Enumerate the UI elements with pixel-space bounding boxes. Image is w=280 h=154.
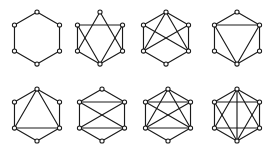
graph-node-2 (257, 126, 261, 130)
graph-node-3 (235, 139, 239, 143)
graph-node-0 (235, 10, 239, 14)
graph-node-5 (12, 100, 16, 104)
graph-node-4 (12, 49, 16, 53)
graph-node-4 (141, 49, 145, 53)
graph-node-5 (212, 23, 216, 27)
graph-node-3 (164, 62, 168, 66)
figure-background (0, 0, 280, 154)
graph-node-2 (257, 49, 261, 53)
graph-node-2 (188, 126, 192, 130)
graph-node-5 (212, 100, 216, 104)
graph-node-2 (57, 49, 61, 53)
graph-node-4 (143, 126, 147, 130)
graph-node-1 (57, 100, 61, 104)
graph-node-2 (122, 126, 126, 130)
graph-node-0 (100, 87, 104, 91)
graph-node-1 (186, 23, 190, 27)
graph-node-0 (98, 10, 102, 14)
graph-node-3 (98, 62, 102, 66)
graph-node-4 (212, 126, 216, 130)
graph-node-4 (212, 49, 216, 53)
graph-node-4 (12, 126, 16, 130)
graph-node-3 (235, 62, 239, 66)
graph-node-0 (35, 87, 39, 91)
graph-node-5 (75, 23, 79, 27)
graph-node-3 (100, 139, 104, 143)
graph-node-5 (77, 100, 81, 104)
graph-family-figure (0, 0, 280, 154)
graph-node-0 (164, 10, 168, 14)
graph-node-3 (35, 62, 39, 66)
graph-node-4 (75, 49, 79, 53)
graph-node-1 (188, 100, 192, 104)
graph-node-3 (35, 139, 39, 143)
graph-node-0 (35, 10, 39, 14)
graph-node-1 (257, 100, 261, 104)
graph-node-1 (257, 23, 261, 27)
graph-node-0 (166, 87, 170, 91)
graph-node-5 (12, 23, 16, 27)
graph-node-5 (141, 23, 145, 27)
graph-node-3 (166, 139, 170, 143)
graph-node-2 (57, 126, 61, 130)
graph-node-4 (77, 126, 81, 130)
graph-node-1 (122, 100, 126, 104)
graph-node-2 (186, 49, 190, 53)
graph-node-0 (235, 87, 239, 91)
graph-node-5 (143, 100, 147, 104)
graph-node-1 (120, 23, 124, 27)
graph-node-1 (57, 23, 61, 27)
graph-node-2 (120, 49, 124, 53)
